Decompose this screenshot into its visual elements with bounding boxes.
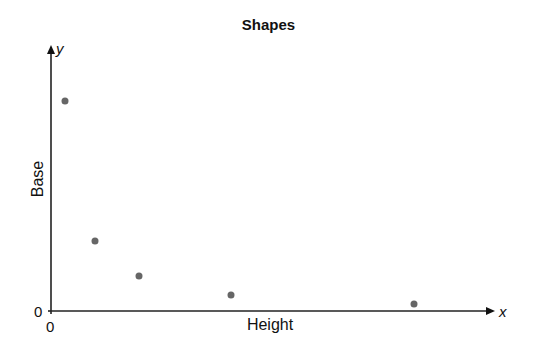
data-point: [62, 98, 69, 105]
y-tick-0: 0: [34, 303, 42, 320]
x-axis-letter: x: [499, 303, 507, 320]
scatter-chart: Shapes y x 0 0 Height Base: [0, 0, 537, 354]
axes: [47, 45, 495, 315]
x-tick-0: 0: [46, 318, 54, 335]
data-point: [411, 301, 418, 308]
y-axis-letter: y: [56, 40, 64, 57]
data-point: [92, 238, 99, 245]
y-axis-label: Base: [29, 139, 47, 219]
x-axis-label: Height: [230, 316, 310, 334]
x-axis-arrow-icon: [486, 307, 495, 315]
data-point: [228, 292, 235, 299]
y-axis-arrow-icon: [47, 45, 55, 54]
data-point: [136, 273, 143, 280]
plot-area: [0, 0, 537, 354]
data-points: [62, 98, 418, 308]
